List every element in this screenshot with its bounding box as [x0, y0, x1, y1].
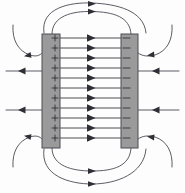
interior-field-line: [60, 44, 122, 52]
fringe-right-upper-curve: [138, 25, 172, 56]
fringe-arc-bottom-outer-arrow: [88, 181, 96, 187]
interior-field-line: [60, 94, 122, 102]
interior-field-line: [60, 84, 122, 92]
interior-field-arrow: [87, 84, 96, 92]
interior-field-line: [60, 64, 122, 72]
fringe-arc-top-outer-arrow: [88, 1, 96, 7]
fringe-arc-top-inner-arrow: [88, 9, 96, 15]
interior-field-arrow: [87, 64, 96, 72]
interior-field-line: [60, 74, 122, 82]
fringe-arc-bottom-inner-arrow: [88, 168, 96, 174]
interior-field-line: [60, 114, 122, 122]
positive-plate-body: [42, 34, 60, 148]
negative-plate: [121, 34, 138, 148]
interior-field-arrow: [87, 74, 96, 82]
fringe-arc-bottom-inner: [52, 148, 131, 171]
interior-field-arrow: [87, 104, 96, 112]
fringe-right-lines: [138, 25, 179, 167]
fringe-right-lower-arrow: [147, 135, 155, 141]
interior-field-arrow: [87, 94, 96, 102]
interior-field-line: [60, 124, 122, 132]
fringe-left-lines: [6, 25, 42, 167]
interior-field-line: [60, 104, 122, 112]
positive-plate: [42, 34, 60, 148]
interior-field-line: [60, 34, 122, 42]
fringe-right-lower-curve: [138, 136, 172, 167]
fringe-arc-top-outer: [44, 3, 146, 33]
fringe-arc-top-inner: [52, 11, 131, 34]
interior-field-line: [60, 54, 122, 62]
field-diagram-svg: [0, 0, 185, 193]
interior-field-arrow: [87, 114, 96, 122]
fringe-left-lower-curve: [13, 136, 42, 167]
fringe-right-mid-lower-arrow: [152, 107, 160, 114]
interior-field-arrow: [87, 54, 96, 62]
fringe-top-arcs: [44, 1, 146, 34]
capacitor-field-figure: [0, 0, 185, 193]
fringe-right-mid-upper-arrow: [152, 68, 160, 75]
fringe-bottom-arcs: [44, 148, 146, 187]
negative-plate-body: [121, 34, 138, 148]
fringe-left-upper-curve: [13, 25, 42, 56]
fringe-left-mid-upper-arrow: [18, 68, 26, 75]
interior-field-arrow: [87, 134, 96, 142]
interior-field-line: [60, 134, 122, 142]
interior-field-arrow: [87, 124, 96, 132]
interior-field-lines: [60, 34, 122, 142]
fringe-right-upper-arrow: [147, 52, 155, 58]
interior-field-arrow: [87, 44, 96, 52]
fringe-left-mid-lower-arrow: [18, 107, 26, 114]
interior-field-arrow: [87, 34, 96, 42]
fringe-arc-bottom-outer: [44, 149, 146, 184]
